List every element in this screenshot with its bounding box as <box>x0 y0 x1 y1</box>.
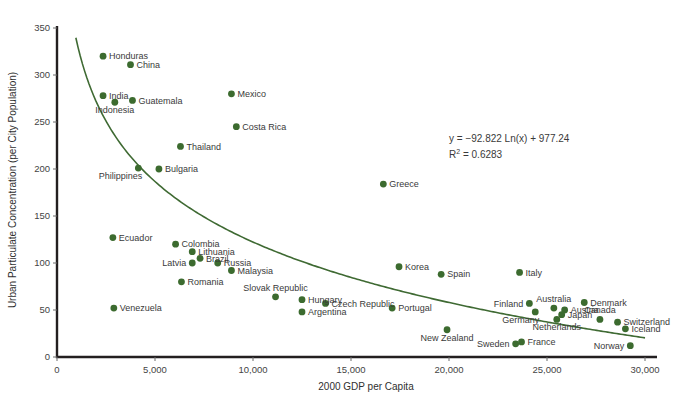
data-point-label: New Zealand <box>421 333 474 343</box>
data-point-label: Greece <box>389 179 419 189</box>
data-point-label: Argentina <box>308 307 347 317</box>
data-point[interactable] <box>110 305 117 312</box>
data-point[interactable] <box>438 271 445 278</box>
y-axis-title: Urban Particulate Concentration (per Cit… <box>7 72 18 308</box>
data-point-label: Indonesia <box>95 105 134 115</box>
data-point[interactable] <box>627 342 634 349</box>
data-point[interactable] <box>228 90 235 97</box>
data-point[interactable] <box>518 339 525 346</box>
y-tick-label: 100 <box>34 257 50 268</box>
data-point-label: Guatemala <box>138 96 182 106</box>
trendline-equation: y = −92.822 Ln(x) + 977.24 <box>449 133 570 144</box>
data-point[interactable] <box>178 278 185 285</box>
x-tick-label: 15,000 <box>336 364 365 375</box>
x-tick-label: 20,000 <box>434 364 463 375</box>
data-point[interactable] <box>396 263 403 270</box>
x-tick-label: 30,000 <box>630 364 659 375</box>
data-point-label: Bulgaria <box>165 164 198 174</box>
data-point-label: Latvia <box>162 258 186 268</box>
data-point-labels-group: HondurasChinaIndiaIndonesiaGuatemalaMexi… <box>95 51 670 351</box>
data-point-label: Canada <box>584 305 616 315</box>
data-point[interactable] <box>512 340 519 347</box>
data-point-label: Mexico <box>237 89 266 99</box>
data-point[interactable] <box>272 293 279 300</box>
data-point[interactable] <box>526 300 533 307</box>
data-point-label: Korea <box>405 262 429 272</box>
y-tick-label: 50 <box>39 304 50 315</box>
data-point[interactable] <box>550 305 557 312</box>
data-point-label: Philippines <box>99 171 143 181</box>
equation-annotation: y = −92.822 Ln(x) + 977.24 R2 = 0.6283 <box>449 133 570 160</box>
y-tick-label: 200 <box>34 163 50 174</box>
data-point[interactable] <box>558 311 565 318</box>
data-point[interactable] <box>129 97 136 104</box>
data-point-label: Netherlands <box>533 322 582 332</box>
data-point-label: China <box>137 60 161 70</box>
data-point-label: Spain <box>447 269 470 279</box>
data-point[interactable] <box>127 61 134 68</box>
y-tick-label: 300 <box>34 69 50 80</box>
data-point-label: Portugal <box>398 303 432 313</box>
data-point[interactable] <box>177 143 184 150</box>
data-point-label: Ecuador <box>119 233 153 243</box>
r-squared-annotation: R2 = 0.6283 <box>449 148 503 160</box>
data-point[interactable] <box>299 296 306 303</box>
x-axis-title: 2000 GDP per Capita <box>318 381 414 392</box>
y-tick-label: 150 <box>34 210 50 221</box>
data-point-label: Costa Rica <box>242 122 286 132</box>
y-tick-label: 0 <box>45 351 50 362</box>
data-point[interactable] <box>189 260 196 267</box>
x-tick-label: 0 <box>54 364 59 375</box>
x-tick-label: 10,000 <box>238 364 267 375</box>
trendline <box>76 38 645 338</box>
data-point[interactable] <box>614 319 621 326</box>
x-axis-tick-labels: 05,00010,00015,00020,00025,00030,000 <box>54 364 659 375</box>
data-point-label: Norway <box>594 341 625 351</box>
data-point[interactable] <box>380 181 387 188</box>
data-point-label: Iceland <box>631 324 660 334</box>
data-point-label: India <box>109 91 129 101</box>
data-point[interactable] <box>109 234 116 241</box>
data-point[interactable] <box>516 269 523 276</box>
x-tick-label: 25,000 <box>532 364 561 375</box>
data-point[interactable] <box>597 316 604 323</box>
data-point-label: Romania <box>187 277 223 287</box>
scatter-chart: 050100150200250300350 05,00010,00015,000… <box>0 0 674 404</box>
data-point-label: Malaysia <box>237 266 273 276</box>
data-point[interactable] <box>156 166 163 173</box>
y-tick-label: 350 <box>34 22 50 33</box>
x-tick-label: 5,000 <box>143 364 167 375</box>
data-point-label: Venezuela <box>120 303 162 313</box>
data-point[interactable] <box>100 53 107 60</box>
data-point[interactable] <box>233 123 240 130</box>
data-point-label: Sweden <box>477 339 510 349</box>
data-point-label: Australia <box>536 294 571 304</box>
y-axis-tick-labels: 050100150200250300350 <box>34 22 50 362</box>
data-point[interactable] <box>299 308 306 315</box>
data-point-label: Finland <box>494 299 524 309</box>
data-point-label: Italy <box>526 268 543 278</box>
data-point[interactable] <box>172 241 179 248</box>
chart-canvas: 050100150200250300350 05,00010,00015,000… <box>0 0 674 404</box>
y-tick-label: 250 <box>34 116 50 127</box>
data-point-label: Thailand <box>186 142 221 152</box>
data-point-label: France <box>528 337 556 347</box>
data-point-label: Slovak Republic <box>243 283 308 293</box>
data-point[interactable] <box>100 92 107 99</box>
